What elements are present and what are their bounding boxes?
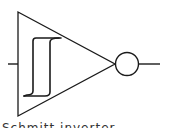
gate-label: Schmitt inverter (2, 121, 115, 128)
inversion-bubble (116, 53, 139, 76)
hysteresis-icon (24, 38, 61, 96)
schmitt-trigger-inverter-symbol (0, 0, 172, 128)
